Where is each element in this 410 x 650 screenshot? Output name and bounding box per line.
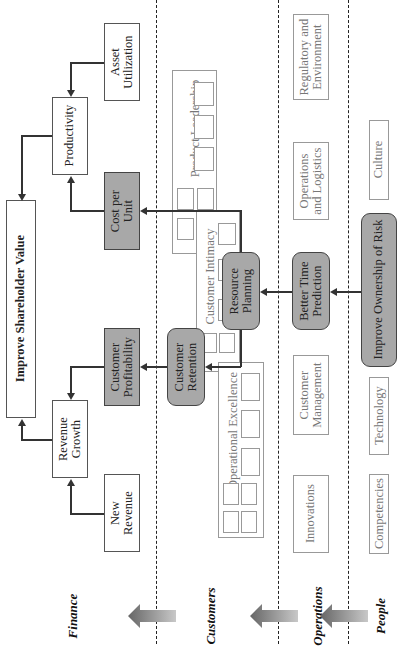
- arrowhead-up-icon: [67, 479, 75, 486]
- operations-logistics-line2: and Logistics: [310, 147, 324, 214]
- utilization-label: Utilization: [121, 35, 135, 88]
- customer-retention-line2: Retention: [185, 343, 199, 392]
- connector-horizontal: [147, 210, 241, 212]
- growth-label: Growth: [69, 420, 83, 458]
- strategy-cell: [223, 511, 239, 533]
- connector-vertical: [70, 485, 72, 514]
- connector-vertical: [70, 366, 72, 394]
- perspective-arrow-left-icon: [320, 602, 370, 630]
- strategy-cell: [177, 218, 194, 240]
- strategy-cell: [194, 115, 214, 139]
- perspective-label-people: People: [373, 591, 389, 641]
- unit-label: Unit: [121, 200, 135, 222]
- connector-cost-productivity: [70, 210, 104, 212]
- asset-utilization-box: AssetUtilization: [104, 23, 140, 101]
- customer-management-box: CustomerManagement: [293, 355, 329, 435]
- separator-finance-customers: [156, 0, 157, 644]
- customer-retention-box: CustomerRetention: [167, 328, 205, 406]
- arrowhead-left-icon: [140, 363, 147, 371]
- strategy-cell: [194, 147, 214, 171]
- improve-shareholder-value-label: Improve Shareholder Value: [14, 235, 27, 382]
- operations-logistics-box: Operationsand Logistics: [293, 142, 329, 220]
- profitability-label: Profitability: [121, 337, 135, 397]
- strategy-cell: [223, 483, 239, 505]
- connector-vertical: [70, 182, 72, 211]
- connector-asset-productivity: [70, 62, 104, 64]
- strategy-cell: [194, 82, 214, 106]
- arrowhead-left-icon: [260, 288, 267, 296]
- resource-planning-box: ResourcePlanning: [222, 252, 260, 330]
- revenue2-label: Revenue: [121, 491, 135, 535]
- strategy-cell: [241, 511, 257, 533]
- connector-vertical: [70, 62, 72, 92]
- connector-vertical: [21, 135, 23, 195]
- productivity-label: Productivity: [63, 105, 76, 167]
- arrowhead-left-icon: [140, 207, 147, 215]
- innovations-box: Innovations: [293, 475, 329, 553]
- connector-profitability-revenue: [70, 366, 104, 368]
- arrowhead-left-icon: [330, 288, 337, 296]
- productivity-box: Productivity: [52, 97, 88, 175]
- arrowhead-down-icon: [67, 393, 75, 400]
- resource-planning-line1: Resource: [227, 268, 241, 315]
- strategy-cell: [241, 483, 257, 505]
- technology-box: Technology: [369, 377, 389, 455]
- connector-ownership-prediction: [337, 291, 361, 293]
- arrowhead-up-icon: [18, 419, 26, 426]
- new-revenue-box: NewRevenue: [104, 474, 140, 552]
- strategy-cell: [197, 188, 214, 210]
- strategy-cell: [218, 223, 236, 245]
- perspective-label-customers: Customers: [203, 581, 219, 650]
- competencies-label: Competencies: [372, 479, 385, 550]
- connector-newrevenue-revenue: [70, 513, 104, 515]
- perspective-label-finance: Finance: [65, 591, 81, 641]
- customer-intimacy-label: Customer Intimacy: [203, 222, 218, 332]
- operational-excellence-label: Operational Excellence: [226, 361, 241, 501]
- strategy-cell: [219, 333, 235, 353]
- strategy-cell: [241, 448, 260, 476]
- connector-revenue-shareholder: [21, 439, 52, 441]
- innovations-label: Innovations: [304, 484, 317, 543]
- culture-box: Culture: [369, 120, 389, 200]
- connector-retention-profitability: [147, 366, 167, 368]
- culture-label: Culture: [372, 141, 385, 179]
- connector-productivity-shareholder: [21, 135, 52, 137]
- customer-management-line2: Management: [310, 362, 324, 427]
- connector-vertical: [21, 425, 23, 440]
- arrowhead-left-icon: [205, 363, 212, 371]
- connector-resource-cost: [240, 210, 242, 252]
- customer-label: Customer: [108, 343, 122, 392]
- revenue-growth-box: RevenueGrowth: [52, 400, 88, 478]
- strategy-cell: [241, 410, 260, 438]
- revenue-label: Revenue: [56, 417, 70, 461]
- new-label: New: [108, 501, 122, 525]
- connector-horizontal: [212, 366, 241, 368]
- separator-operations-people: [348, 0, 349, 644]
- strategy-cell: [177, 188, 194, 210]
- improve-ownership-risk-box: Improve Ownership of Risk: [361, 213, 397, 367]
- perspective-arrow-left-icon: [128, 602, 178, 630]
- connector-prediction-resource: [267, 291, 292, 293]
- better-time-prediction-box: Better TimePrediction: [292, 252, 330, 330]
- improve-ownership-label: Improve Ownership of Risk: [372, 220, 385, 360]
- separator-customers-operations: [278, 0, 279, 644]
- strategy-cell: [241, 373, 260, 401]
- perspective-arrow-left-icon: [250, 602, 300, 630]
- technology-label: Technology: [372, 387, 385, 446]
- customer-retention-line1: Customer: [172, 343, 186, 392]
- regulatory-environment-box: Regulatory andEnvironment: [293, 14, 329, 100]
- regulatory-line2: Environment: [310, 24, 324, 89]
- resource-planning-line2: Planning: [240, 269, 254, 313]
- connector-resource-retention: [240, 330, 242, 367]
- arrowhead-up-icon: [67, 176, 75, 183]
- better-time-line2: Prediction: [310, 265, 324, 316]
- operational-excellence-group: Operational Excellence: [218, 362, 264, 538]
- operations-logistics-line1: Operations: [297, 154, 311, 209]
- customer-profitability-box: CustomerProfitability: [104, 328, 140, 406]
- arrowhead-down-icon: [18, 194, 26, 201]
- improve-shareholder-value-box: Improve Shareholder Value: [6, 200, 36, 418]
- cost-per-unit-box: Cost perUnit: [104, 172, 140, 250]
- arrowhead-down-icon: [67, 90, 75, 97]
- regulatory-line1: Regulatory and: [297, 19, 311, 96]
- cost-per-label: Cost per: [108, 190, 122, 232]
